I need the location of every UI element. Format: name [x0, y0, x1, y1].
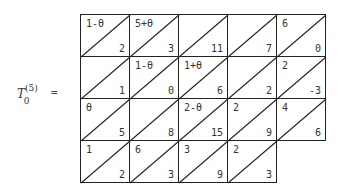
grid-cell: 46: [276, 98, 326, 141]
cell-bottom-value: 0: [168, 85, 174, 96]
grid-cell: 2-3: [276, 56, 326, 99]
matrix-label: T(5)0: [17, 85, 44, 103]
cell-bottom-value: 3: [266, 169, 272, 180]
grid-cell: 12: [80, 140, 130, 183]
cell-bottom-value: 2: [266, 85, 272, 96]
cell-bottom-value: 0: [315, 43, 321, 54]
cell-bottom-value: 3: [168, 43, 174, 54]
grid-cell: 7: [227, 14, 277, 57]
cell-bottom-value: 2: [119, 43, 125, 54]
cell-bottom-value: 5: [119, 127, 125, 138]
grid-cell: 1+θ6: [178, 56, 228, 99]
cell-top-value: 2: [233, 102, 239, 113]
cell-bottom-value: 15: [211, 127, 223, 138]
cell-bottom-value: 9: [217, 169, 223, 180]
cell-bottom-value: 2: [119, 169, 125, 180]
grid-cell: 8: [129, 98, 179, 141]
cell-bottom-value: 7: [266, 43, 272, 54]
cell-bottom-value: 6: [315, 127, 321, 138]
cell-top-value: 3: [184, 144, 190, 155]
cell-bottom-value: -3: [309, 85, 321, 96]
cell-top-value: 2: [233, 144, 239, 155]
grid-cell: 11: [178, 14, 228, 57]
grid-cell: 1-θ0: [129, 56, 179, 99]
cell-top-value: 1-θ: [86, 18, 104, 29]
grid-cell: 2: [227, 56, 277, 99]
cell-top-value: 1-θ: [135, 60, 153, 71]
cell-bottom-value: 3: [168, 169, 174, 180]
cell-top-value: 5+θ: [135, 18, 153, 29]
grid-cell: 1: [80, 56, 130, 99]
grid-cell: 23: [227, 140, 277, 183]
label-subscript: 0: [24, 96, 30, 106]
grid-cell: 39: [178, 140, 228, 183]
grid-cell: 29: [227, 98, 277, 141]
grid-cell: 1-θ2: [80, 14, 130, 57]
cell-bottom-value: 9: [266, 127, 272, 138]
cell-bottom-value: 8: [168, 127, 174, 138]
cell-bottom-value: 6: [217, 85, 223, 96]
cell-top-value: 6: [135, 144, 141, 155]
cell-top-value: 1+θ: [184, 60, 202, 71]
equals-sign: =: [51, 86, 58, 99]
cell-bottom-value: 1: [119, 85, 125, 96]
grid-cell: 63: [129, 140, 179, 183]
grid-cell: 5+θ3: [129, 14, 179, 57]
grid-cell: 2-θ15: [178, 98, 228, 141]
cell-top-value: 6: [282, 18, 288, 29]
cell-top-value: 2: [282, 60, 288, 71]
grid-cell: θ5: [80, 98, 130, 141]
cell-top-value: 2-θ: [184, 102, 202, 113]
grid-cell: 60: [276, 14, 326, 57]
cell-top-value: θ: [86, 102, 92, 113]
cell-bottom-value: 11: [211, 43, 223, 54]
label-superscript: (5): [25, 83, 38, 93]
cell-top-value: 1: [86, 144, 92, 155]
cell-top-value: 4: [282, 102, 288, 113]
